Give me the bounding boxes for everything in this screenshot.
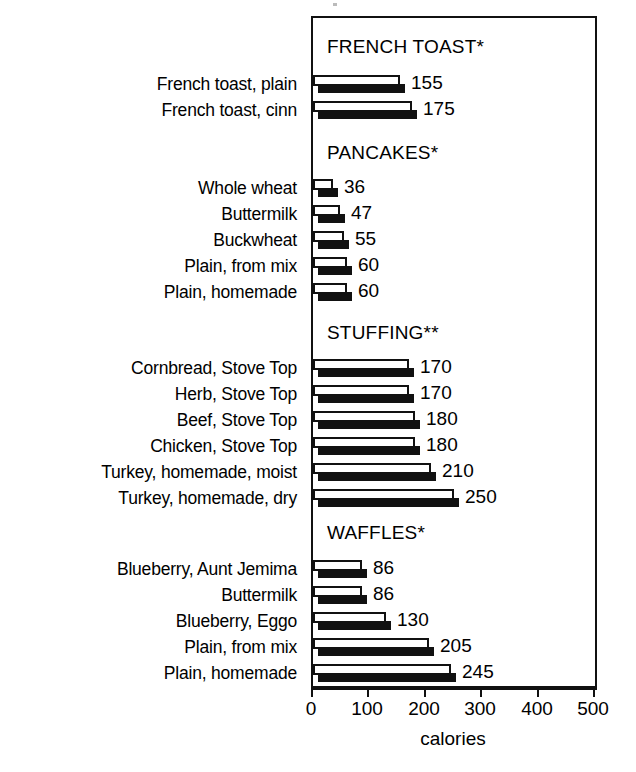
section-heading: STUFFING** bbox=[327, 322, 439, 344]
x-axis-tick bbox=[311, 688, 313, 697]
bar-row-label: Turkey, homemade, moist bbox=[101, 460, 297, 486]
bar-face bbox=[313, 283, 347, 294]
x-axis-tick-label: 500 bbox=[563, 698, 623, 720]
section-heading: FRENCH TOAST* bbox=[327, 36, 484, 58]
section-heading: PANCAKES* bbox=[327, 142, 438, 164]
bar-row-label: Plain, from mix bbox=[184, 254, 297, 280]
bar-face bbox=[313, 560, 362, 571]
bar bbox=[313, 486, 462, 512]
bar-face bbox=[313, 75, 400, 86]
bar-row: Blueberry, Eggo130 bbox=[0, 609, 636, 635]
bar-row-label: Blueberry, Eggo bbox=[176, 609, 297, 635]
bar-row: Buttermilk86 bbox=[0, 583, 636, 609]
bar bbox=[313, 557, 370, 583]
x-axis: 0100200300400500 bbox=[311, 686, 595, 689]
bar-face bbox=[313, 359, 409, 370]
bar-value-label: 170 bbox=[420, 356, 452, 382]
bar-value-label: 170 bbox=[420, 382, 452, 408]
bar-value-label: 250 bbox=[465, 486, 497, 512]
x-axis-tick bbox=[480, 688, 482, 697]
bar-row-label: Blueberry, Aunt Jemima bbox=[117, 557, 297, 583]
bar-row: Chicken, Stove Top180 bbox=[0, 434, 636, 460]
x-axis-tick bbox=[537, 688, 539, 697]
bar-value-label: 47 bbox=[351, 202, 372, 228]
bar-face bbox=[313, 205, 340, 216]
bar-row-label: Chicken, Stove Top bbox=[150, 434, 297, 460]
bar-value-label: 245 bbox=[462, 661, 494, 687]
bar bbox=[313, 609, 394, 635]
x-axis-tick-label: 400 bbox=[507, 698, 567, 720]
bar-value-label: 86 bbox=[373, 557, 394, 583]
bar-value-label: 175 bbox=[423, 98, 455, 124]
bar bbox=[313, 202, 348, 228]
bar bbox=[313, 583, 370, 609]
bar bbox=[313, 176, 341, 202]
bar-row-label: Buttermilk bbox=[221, 583, 297, 609]
bar bbox=[313, 434, 423, 460]
x-axis-tick bbox=[593, 688, 595, 697]
bar-row-label: Plain, homemade bbox=[164, 661, 297, 687]
chart-page: FRENCH TOAST*PANCAKES*STUFFING**WAFFLES*… bbox=[0, 0, 636, 772]
bar-value-label: 86 bbox=[373, 583, 394, 609]
bar-row: Turkey, homemade, dry250 bbox=[0, 486, 636, 512]
bar-row: French toast, cinn175 bbox=[0, 98, 636, 124]
bar-row: Plain, homemade245 bbox=[0, 661, 636, 687]
bar-row: Whole wheat36 bbox=[0, 176, 636, 202]
bar bbox=[313, 635, 437, 661]
bar-row: Plain, from mix60 bbox=[0, 254, 636, 280]
x-axis-tick bbox=[424, 688, 426, 697]
bar-row: Buckwheat55 bbox=[0, 228, 636, 254]
bar-value-label: 60 bbox=[358, 280, 379, 306]
bar-row: Blueberry, Aunt Jemima86 bbox=[0, 557, 636, 583]
bar-row: Buttermilk47 bbox=[0, 202, 636, 228]
bar-row: Plain, from mix205 bbox=[0, 635, 636, 661]
x-axis-title: calories bbox=[311, 728, 595, 750]
bar-row-label: French toast, cinn bbox=[162, 98, 298, 124]
bar-face bbox=[313, 664, 451, 675]
bar bbox=[313, 356, 417, 382]
bar-row: Plain, homemade60 bbox=[0, 280, 636, 306]
x-axis-tick-label: 100 bbox=[337, 698, 397, 720]
x-axis-tick bbox=[367, 688, 369, 697]
bar bbox=[313, 382, 417, 408]
bar-value-label: 205 bbox=[440, 635, 472, 661]
bar-row-label: Plain, from mix bbox=[184, 635, 297, 661]
bar-face bbox=[313, 385, 409, 396]
bar bbox=[313, 408, 423, 434]
bar-row-label: Herb, Stove Top bbox=[175, 382, 297, 408]
bar-face bbox=[313, 101, 412, 112]
bar bbox=[313, 228, 352, 254]
bar-value-label: 60 bbox=[358, 254, 379, 280]
x-axis-tick-label: 0 bbox=[281, 698, 341, 720]
bar-value-label: 55 bbox=[355, 228, 376, 254]
section-heading: WAFFLES* bbox=[327, 522, 425, 544]
bar-value-label: 36 bbox=[344, 176, 365, 202]
bar-row-label: Buttermilk bbox=[221, 202, 297, 228]
bar-face bbox=[313, 437, 415, 448]
bar-face bbox=[313, 411, 415, 422]
bar bbox=[313, 460, 439, 486]
bar-face bbox=[313, 586, 362, 597]
bar-value-label: 210 bbox=[442, 460, 474, 486]
x-axis-tick-label: 200 bbox=[394, 698, 454, 720]
bar-value-label: 180 bbox=[426, 408, 458, 434]
bar-face bbox=[313, 463, 431, 474]
bar bbox=[313, 72, 408, 98]
x-axis-tick-label: 300 bbox=[450, 698, 510, 720]
bar-row-label: Cornbread, Stove Top bbox=[131, 356, 297, 382]
bar-row-label: Buckwheat bbox=[213, 228, 297, 254]
bar-row-label: Plain, homemade bbox=[164, 280, 297, 306]
bar-row: Turkey, homemade, moist210 bbox=[0, 460, 636, 486]
bar-row: Cornbread, Stove Top170 bbox=[0, 356, 636, 382]
bar bbox=[313, 280, 355, 306]
bar-face bbox=[313, 257, 347, 268]
bar-face bbox=[313, 638, 429, 649]
bar bbox=[313, 98, 420, 124]
bar-row-label: French toast, plain bbox=[157, 72, 297, 98]
bar-row: Beef, Stove Top180 bbox=[0, 408, 636, 434]
bar-face bbox=[313, 612, 386, 623]
bar-face bbox=[313, 231, 344, 242]
bar bbox=[313, 254, 355, 280]
bar-value-label: 180 bbox=[426, 434, 458, 460]
bar-value-label: 130 bbox=[397, 609, 429, 635]
